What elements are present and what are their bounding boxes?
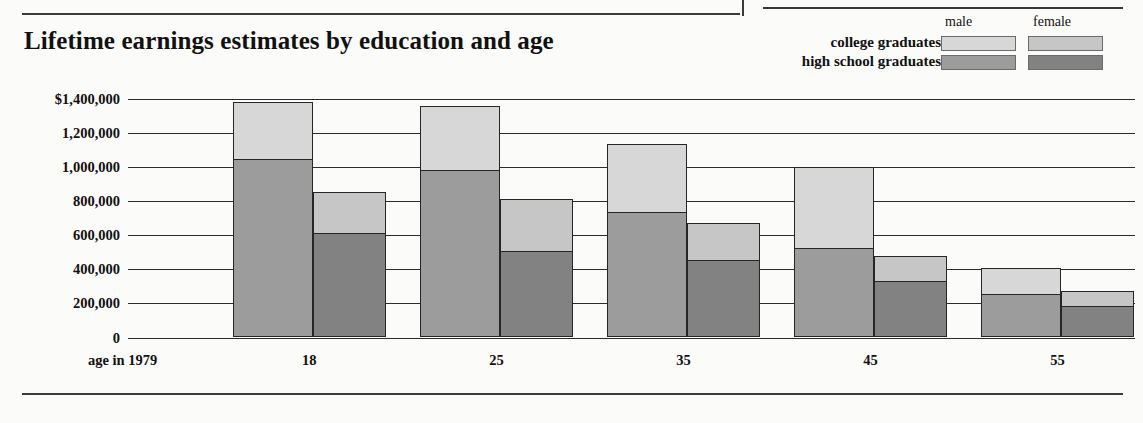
bar bbox=[420, 106, 500, 337]
bar-segment-college-female bbox=[314, 193, 385, 233]
bar-segment-highschool-female bbox=[1062, 306, 1133, 336]
bar-segment-college-female bbox=[875, 257, 946, 281]
bar-segment-highschool-male bbox=[795, 248, 873, 336]
bar bbox=[313, 192, 386, 338]
bar-segment-college-female bbox=[1062, 292, 1133, 306]
bar-segment-highschool-female bbox=[501, 251, 572, 337]
bar-segment-college-male bbox=[795, 168, 873, 248]
bar bbox=[794, 167, 874, 338]
y-axis-tick-label: 800,000 bbox=[0, 194, 120, 209]
gridline bbox=[128, 338, 1135, 339]
bar bbox=[500, 199, 573, 337]
bar-segment-highschool-female bbox=[314, 233, 385, 337]
x-axis-tick-label: 25 bbox=[489, 352, 504, 369]
bar-segment-highschool-male bbox=[608, 212, 686, 336]
bar bbox=[233, 102, 313, 338]
bar-segment-highschool-female bbox=[688, 260, 759, 337]
bar-segment-college-female bbox=[501, 200, 572, 250]
bar-segment-college-male bbox=[234, 103, 312, 159]
bar-segment-college-male bbox=[982, 269, 1060, 294]
bar bbox=[874, 256, 947, 337]
y-axis-tick-label: 0 bbox=[0, 330, 120, 345]
y-axis-tick-label: 400,000 bbox=[0, 262, 120, 277]
bar bbox=[687, 223, 760, 337]
y-axis-tick-label: 200,000 bbox=[0, 296, 120, 311]
y-axis-tick-label: $1,400,000 bbox=[0, 91, 120, 106]
x-axis-tick-label: 35 bbox=[676, 352, 691, 369]
bar bbox=[981, 268, 1061, 337]
y-axis-tick-label: 1,000,000 bbox=[0, 160, 120, 175]
bar-segment-highschool-male bbox=[982, 294, 1060, 336]
bar-segment-highschool-female bbox=[875, 281, 946, 336]
bar-segment-college-male bbox=[608, 145, 686, 212]
bar-segment-highschool-male bbox=[234, 159, 312, 336]
x-axis-tick-label: 18 bbox=[302, 352, 317, 369]
x-axis-caption: age in 1979 bbox=[88, 352, 157, 369]
gridline bbox=[128, 99, 1135, 100]
y-axis-tick-label: 600,000 bbox=[0, 228, 120, 243]
bar-segment-college-female bbox=[688, 224, 759, 260]
x-axis-tick-label: 55 bbox=[1050, 352, 1065, 369]
bar-segment-college-male bbox=[421, 107, 499, 170]
bar-segment-highschool-male bbox=[421, 170, 499, 336]
y-axis-tick-label: 1,200,000 bbox=[0, 125, 120, 140]
bar-chart: 0200,000400,000600,000800,0001,000,0001,… bbox=[0, 0, 1143, 423]
bar bbox=[607, 144, 687, 338]
x-axis-tick-label: 45 bbox=[863, 352, 878, 369]
bar bbox=[1061, 291, 1134, 337]
